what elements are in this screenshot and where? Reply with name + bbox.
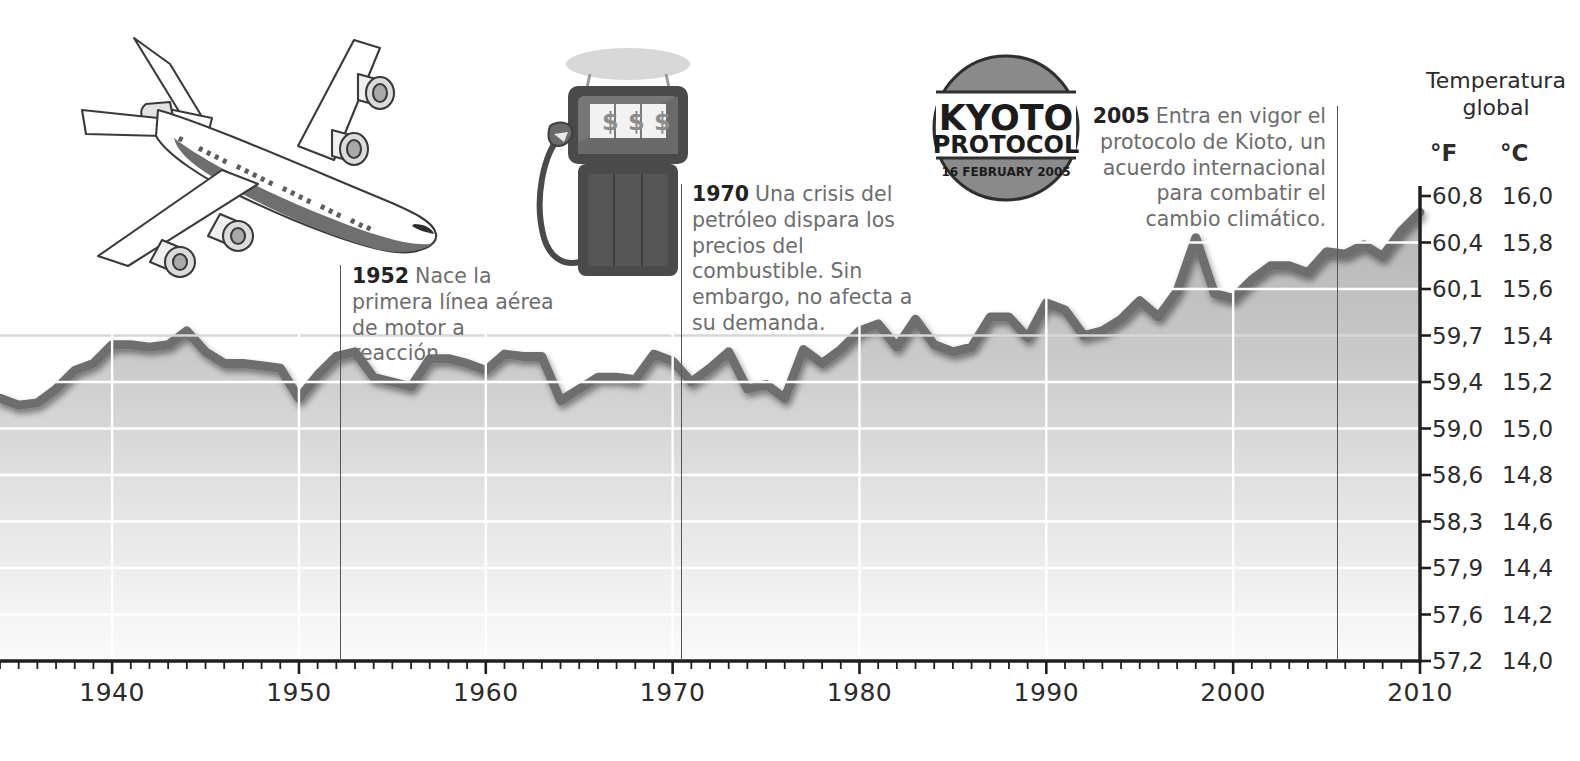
y-tick-label-fahrenheit-60,4: 60,4 bbox=[1432, 230, 1483, 256]
y-tick-label-fahrenheit-59,0: 59,0 bbox=[1432, 416, 1483, 442]
x-tick-label-2000: 2000 bbox=[1200, 678, 1266, 707]
x-tick-label-1950: 1950 bbox=[266, 678, 332, 707]
y-tick-label-fahrenheit-60,8: 60,8 bbox=[1432, 183, 1483, 209]
y-tick-label-celsius-15,2: 15,2 bbox=[1502, 369, 1553, 395]
y-tick-label-fahrenheit-58,6: 58,6 bbox=[1432, 462, 1483, 488]
annotation-line-1952 bbox=[340, 265, 341, 661]
x-tick-label-1980: 1980 bbox=[827, 678, 893, 707]
y-tick-label-celsius-14,8: 14,8 bbox=[1502, 462, 1553, 488]
annotation-1970: 1970Una crisis del petróleo dispara los … bbox=[692, 182, 924, 337]
y-tick-label-fahrenheit-59,4: 59,4 bbox=[1432, 369, 1483, 395]
kyoto-badge-line3: 16 FEBRUARY 2005 bbox=[941, 165, 1070, 179]
y-tick-label-celsius-15,4: 15,4 bbox=[1502, 323, 1553, 349]
kyoto-badge-line2: PROTOCOL bbox=[933, 131, 1080, 159]
y-tick-label-fahrenheit-59,7: 59,7 bbox=[1432, 323, 1483, 349]
y-tick-label-fahrenheit-60,1: 60,1 bbox=[1432, 276, 1483, 302]
fuel-pump-illustration: $ $ $ bbox=[528, 42, 703, 287]
y-tick-label-fahrenheit-57,9: 57,9 bbox=[1432, 555, 1483, 581]
fuel-pump-dollar-3: $ bbox=[654, 108, 671, 136]
y-axis-header-line2: global bbox=[1412, 95, 1580, 122]
annotation-2005: 2005Entra en vigor el protocolo de Kioto… bbox=[1086, 104, 1326, 233]
airplane-illustration bbox=[62, 18, 462, 283]
y-tick-label-fahrenheit-57,6: 57,6 bbox=[1432, 602, 1483, 628]
unit-fahrenheit-label: °F bbox=[1430, 140, 1457, 166]
y-tick-label-celsius-14,2: 14,2 bbox=[1502, 602, 1553, 628]
y-tick-label-celsius-16,0: 16,0 bbox=[1502, 183, 1553, 209]
kyoto-protocol-badge: KYOTO PROTOCOL 16 FEBRUARY 2005 bbox=[932, 54, 1080, 202]
x-tick-label-1970: 1970 bbox=[640, 678, 706, 707]
annotation-2005-year: 2005 bbox=[1093, 104, 1150, 128]
y-tick-label-celsius-15,0: 15,0 bbox=[1502, 416, 1553, 442]
annotation-line-2005 bbox=[1337, 106, 1338, 661]
x-tick-label-1960: 1960 bbox=[453, 678, 519, 707]
y-tick-label-fahrenheit-57,2: 57,2 bbox=[1432, 648, 1483, 674]
fuel-pump-dollar-1: $ bbox=[602, 108, 619, 136]
y-tick-label-fahrenheit-58,3: 58,3 bbox=[1432, 509, 1483, 535]
y-tick-label-celsius-15,8: 15,8 bbox=[1502, 230, 1553, 256]
x-tick-label-1940: 1940 bbox=[79, 678, 145, 707]
x-tick-label-2010: 2010 bbox=[1387, 678, 1453, 707]
unit-celsius-label: °C bbox=[1500, 140, 1528, 166]
y-tick-label-celsius-14,4: 14,4 bbox=[1502, 555, 1553, 581]
y-tick-label-celsius-14,0: 14,0 bbox=[1502, 648, 1553, 674]
y-tick-label-celsius-14,6: 14,6 bbox=[1502, 509, 1553, 535]
fuel-pump-dollar-2: $ bbox=[628, 108, 645, 136]
y-tick-label-celsius-15,6: 15,6 bbox=[1502, 276, 1553, 302]
y-axis-header: Temperatura global bbox=[1412, 68, 1580, 122]
y-axis-header-line1: Temperatura bbox=[1412, 68, 1580, 95]
x-tick-label-1990: 1990 bbox=[1014, 678, 1080, 707]
